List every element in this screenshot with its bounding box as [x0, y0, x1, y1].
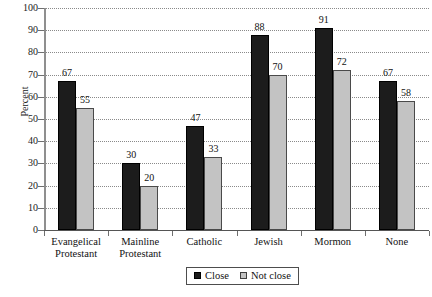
- x-axis-category-line: Catholic: [172, 236, 236, 248]
- bar-value-label: 30: [117, 150, 145, 160]
- y-axis-tick-label: 50: [0, 114, 38, 124]
- y-axis-tick-label: 70: [0, 70, 38, 80]
- bar-close: [379, 81, 397, 230]
- bar-not-close: [397, 101, 415, 230]
- bar-value-label: 20: [135, 173, 163, 183]
- black-square-swatch-icon: [194, 272, 201, 279]
- x-axis-category-line: Jewish: [237, 236, 301, 248]
- y-axis-tick-label: 0: [0, 225, 38, 235]
- bar-value-label: 55: [71, 95, 99, 105]
- y-axis-tick-label: 10: [0, 203, 38, 213]
- bar-close: [186, 126, 204, 230]
- plot-area: 673047889167552033707258: [44, 8, 429, 230]
- chart-legend: Close Not close: [186, 267, 299, 285]
- bar-value-label: 72: [328, 57, 356, 67]
- legend-item-label: Not close: [251, 270, 291, 281]
- x-axis-category-line: Evangelical: [44, 236, 108, 248]
- x-axis-category-label: Jewish: [237, 236, 301, 248]
- bar-value-label: 70: [264, 62, 292, 72]
- y-axis-tick-label: 20: [0, 181, 38, 191]
- bar-value-label: 91: [310, 15, 338, 25]
- x-axis-category-label: None: [365, 236, 429, 248]
- x-axis-category-line: Protestant: [44, 248, 108, 260]
- x-axis-category-line: Mormon: [301, 236, 365, 248]
- x-axis-category-line: Mainline: [108, 236, 172, 248]
- y-axis-tick-label: 60: [0, 92, 38, 102]
- bar-chart: Percent 0102030405060708090100 673047889…: [0, 0, 432, 297]
- bar-value-label: 67: [374, 68, 402, 78]
- legend-item-label: Close: [205, 270, 229, 281]
- bar-value-label: 88: [246, 22, 274, 32]
- x-axis-category-label: Catholic: [172, 236, 236, 248]
- grid-line: [44, 208, 429, 209]
- legend-item-close[interactable]: Close: [194, 270, 229, 281]
- grid-line: [44, 97, 429, 98]
- grid-line: [44, 75, 429, 76]
- bar-value-label: 47: [181, 113, 209, 123]
- y-axis-tick-label: 80: [0, 47, 38, 57]
- bar-not-close: [269, 75, 287, 230]
- y-axis-tick-label: 100: [0, 3, 38, 13]
- bar-not-close: [204, 157, 222, 230]
- gray-square-swatch-icon: [240, 272, 247, 279]
- bar-not-close: [140, 186, 158, 230]
- x-axis-category-label: Mormon: [301, 236, 365, 248]
- y-axis-tick-label: 90: [0, 25, 38, 35]
- grid-line: [44, 8, 429, 9]
- bar-not-close: [76, 108, 94, 230]
- grid-line: [44, 186, 429, 187]
- bar-value-label: 33: [199, 144, 227, 154]
- grid-line: [44, 119, 429, 120]
- x-axis-category-label: EvangelicalProtestant: [44, 236, 108, 260]
- y-axis-tick-label: 40: [0, 136, 38, 146]
- grid-line: [44, 141, 429, 142]
- grid-line: [44, 163, 429, 164]
- bar-value-label: 67: [53, 68, 81, 78]
- legend-item-not-close[interactable]: Not close: [240, 270, 291, 281]
- grid-line: [44, 52, 429, 53]
- x-axis-category-line: Protestant: [108, 248, 172, 260]
- bar-value-label: 58: [392, 88, 420, 98]
- y-axis-tick-label: 30: [0, 158, 38, 168]
- grid-line: [44, 30, 429, 31]
- bar-not-close: [333, 70, 351, 230]
- x-axis-category-label: MainlineProtestant: [108, 236, 172, 260]
- x-axis-category-line: None: [365, 236, 429, 248]
- x-axis-tick: [429, 231, 430, 236]
